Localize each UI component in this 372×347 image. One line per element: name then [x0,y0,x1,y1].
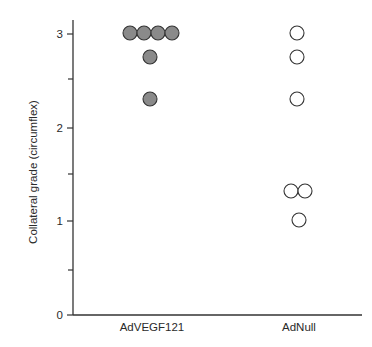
y-tick-label-3: 3 [57,28,63,40]
series-adnull [284,26,312,227]
data-point [298,184,312,198]
dot-plot: 0 1 2 3 AdVEGF121 AdNull [0,0,372,347]
y-tick-label-2: 2 [57,122,63,134]
data-point [290,92,304,106]
data-point [143,92,157,106]
data-point [137,26,151,40]
series-advegf121 [123,26,179,106]
data-point [284,184,298,198]
data-point [292,213,306,227]
x-category-label-adnull: AdNull [282,321,316,333]
y-tick-label-0: 0 [57,309,63,321]
data-point [123,26,137,40]
x-category-label-advegf121: AdVEGF121 [120,321,185,333]
data-point [143,50,157,64]
data-point [290,26,304,40]
y-minor-ticks [68,79,73,270]
data-point [290,50,304,64]
data-point [165,26,179,40]
data-point [151,26,165,40]
y-tick-label-1: 1 [57,215,63,227]
